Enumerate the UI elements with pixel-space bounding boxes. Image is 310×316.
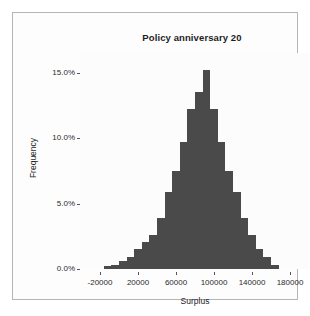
histogram-bar (248, 235, 256, 269)
histogram-bar (218, 142, 226, 269)
x-axis-label: Surplus (81, 296, 309, 306)
histogram-bar (241, 218, 249, 269)
histogram-bar (119, 261, 127, 269)
histogram-bar (111, 265, 119, 269)
y-axis-label: Frequency (28, 118, 38, 198)
histogram-bar (127, 257, 135, 269)
histogram-bar (233, 192, 241, 269)
histogram-bar (210, 109, 218, 269)
x-tick-mark (100, 272, 101, 275)
chart-frame: Policy anniversary 20 Frequency Surplus … (12, 12, 298, 300)
x-tick-mark (214, 272, 215, 275)
histogram-bar (172, 171, 180, 269)
histogram-bar (157, 218, 165, 269)
y-tick-label: 15.0% (27, 68, 75, 77)
y-tick-label: 5.0% (27, 199, 75, 208)
x-tick-mark (176, 272, 177, 275)
histogram-bar (134, 249, 142, 269)
histogram-bar (225, 171, 233, 269)
histogram-bar (271, 265, 279, 269)
chart-title: Policy anniversary 20 (73, 32, 310, 43)
y-tick-mark (77, 138, 80, 139)
x-tick-mark (290, 272, 291, 275)
histogram-bar (149, 235, 157, 269)
y-tick-mark (77, 269, 80, 270)
x-tick-label: 180000 (260, 278, 310, 287)
y-tick-mark (77, 204, 80, 205)
plot-area (81, 53, 309, 269)
histogram-bar (263, 257, 271, 269)
x-tick-mark (252, 272, 253, 275)
histogram-bar (195, 92, 203, 269)
histogram-bar (142, 242, 150, 269)
x-tick-label: 20000 (108, 278, 168, 287)
histogram-bar (165, 192, 173, 269)
figure-canvas: Policy anniversary 20 Frequency Surplus … (0, 0, 310, 316)
x-tick-mark (138, 272, 139, 275)
x-tick-label: 60000 (146, 278, 206, 287)
histogram-bar (203, 70, 211, 269)
histogram-bar (104, 266, 112, 269)
y-tick-label: 0.0% (27, 264, 75, 273)
x-tick-label: 140000 (222, 278, 282, 287)
y-tick-mark (77, 73, 80, 74)
x-tick-label: -20000 (70, 278, 130, 287)
histogram-bar (256, 249, 264, 269)
x-tick-label: 100000 (184, 278, 244, 287)
histogram-bar (187, 109, 195, 269)
histogram-bar (180, 142, 188, 269)
